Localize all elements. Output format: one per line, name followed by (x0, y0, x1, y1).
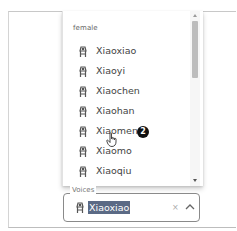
option-label: Xiaoyi (96, 65, 125, 76)
option-xiaoyi[interactable]: Xiaoyi (63, 62, 191, 82)
option-label: Xiaohan (96, 105, 135, 116)
option-xiaohan[interactable]: Xiaohan (63, 102, 191, 122)
person-icon (75, 202, 85, 214)
option-xiaochen[interactable]: Xiaochen (63, 82, 191, 102)
dropdown-scrollbar[interactable] (190, 11, 200, 186)
person-icon (78, 146, 88, 158)
option-label: Xiaochen (96, 85, 140, 96)
scroll-down-arrow-icon[interactable] (193, 179, 197, 182)
option-label: Xiaoxiao (96, 45, 136, 56)
option-xiaomo[interactable]: Xiaomo (63, 142, 191, 162)
scrollbar-thumb[interactable] (192, 21, 198, 78)
scroll-up-arrow-icon[interactable] (193, 14, 197, 17)
chevron-up-icon[interactable] (184, 202, 196, 212)
option-label: Xiaoqiu (96, 165, 131, 176)
selected-voice-value[interactable]: Xiaoxiao (88, 201, 130, 214)
person-icon (78, 66, 88, 78)
person-icon (78, 166, 88, 178)
voice-dropdown-list[interactable]: female Xiaoxiao Xiaoyi Xiaochen Xiaohan … (62, 11, 203, 186)
option-xiaoqiu[interactable]: Xiaoqiu (63, 162, 191, 182)
clear-icon[interactable]: × (172, 201, 179, 214)
person-icon (78, 126, 88, 138)
person-icon (78, 86, 88, 98)
voices-field-label: Voices (70, 186, 96, 195)
hand-pointer-cursor-icon (106, 132, 120, 148)
voices-select[interactable]: Xiaoxiao × (63, 193, 200, 222)
option-xiaomeng[interactable]: Xiaomeng (63, 122, 191, 142)
option-xiaoxiao[interactable]: Xiaoxiao (63, 42, 191, 62)
group-header-female: female (73, 24, 98, 32)
person-icon (78, 46, 88, 58)
step-badge: 2 (137, 126, 149, 138)
person-icon (78, 106, 88, 118)
